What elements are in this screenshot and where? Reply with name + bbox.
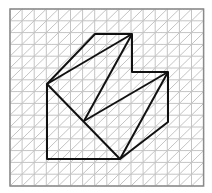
grid-diagonal bbox=[95, 68, 107, 80]
grid-diagonal bbox=[95, 162, 107, 174]
grid-diagonal bbox=[179, 139, 191, 151]
grid-diagonal bbox=[10, 9, 22, 21]
grid-diagonal bbox=[179, 103, 191, 115]
grid-diagonal bbox=[143, 162, 155, 174]
grid-diagonal bbox=[46, 56, 58, 68]
grid-diagonal bbox=[22, 103, 34, 115]
grid-diagonal bbox=[10, 151, 22, 163]
grid-diagonal bbox=[192, 56, 204, 68]
grid-diagonal bbox=[155, 127, 167, 139]
grid-diagonal bbox=[107, 127, 119, 139]
grid-diagonal bbox=[46, 21, 58, 33]
grid-diagonal bbox=[71, 80, 83, 92]
grid-diagonal bbox=[155, 33, 167, 45]
grid-diagonal bbox=[83, 139, 95, 151]
grid-diagonal bbox=[22, 21, 34, 33]
grid-diagonal bbox=[10, 103, 22, 115]
grid-diagonal bbox=[71, 127, 83, 139]
grid-diagonal bbox=[179, 21, 191, 33]
grid-diagonal bbox=[22, 44, 34, 56]
grid-diagonal bbox=[58, 162, 70, 174]
grid-diagonal bbox=[10, 44, 22, 56]
grid-diagonal bbox=[143, 9, 155, 21]
grid-diagonal bbox=[167, 127, 179, 139]
grid-diagonal bbox=[46, 139, 58, 151]
grid-diagonal bbox=[179, 162, 191, 174]
grid-diagonal bbox=[107, 80, 119, 92]
grid-diagonal bbox=[107, 9, 119, 21]
grid-diagonal bbox=[143, 56, 155, 68]
grid-diagonal bbox=[71, 151, 83, 163]
grid-diagonal bbox=[119, 80, 131, 92]
grid-diagonal bbox=[192, 92, 204, 104]
grid-diagonal bbox=[167, 115, 179, 127]
grid-diagonal bbox=[131, 21, 143, 33]
grid-diagonal bbox=[10, 162, 22, 174]
grid-diagonal bbox=[192, 151, 204, 163]
grid-diagonal bbox=[155, 139, 167, 151]
grid-diagonal bbox=[34, 162, 46, 174]
grid-diagonal bbox=[192, 103, 204, 115]
grid-diagonal bbox=[143, 44, 155, 56]
grid-diagonal bbox=[71, 162, 83, 174]
grid-diagonal bbox=[83, 151, 95, 163]
grid-diagonal bbox=[34, 103, 46, 115]
grid-diagonal bbox=[34, 56, 46, 68]
grid-diagonal bbox=[58, 80, 70, 92]
grid-diagonal bbox=[71, 115, 83, 127]
grid-diagonal bbox=[155, 9, 167, 21]
grid-diagonal bbox=[46, 103, 58, 115]
grid-diagonal bbox=[192, 44, 204, 56]
grid-diagonal bbox=[143, 115, 155, 127]
grid-diagonal bbox=[179, 9, 191, 21]
grid-diagonal bbox=[119, 56, 131, 68]
grid-diagonal bbox=[95, 9, 107, 21]
grid-diagonal bbox=[107, 174, 119, 186]
grid-diagonal bbox=[58, 127, 70, 139]
grid-diagonal bbox=[192, 127, 204, 139]
grid-diagonal bbox=[71, 92, 83, 104]
grid-diagonal bbox=[143, 33, 155, 45]
grid-diagonal bbox=[167, 9, 179, 21]
grid-diagonal bbox=[34, 21, 46, 33]
grid-diagonal bbox=[192, 115, 204, 127]
grid-diagonal bbox=[192, 33, 204, 45]
grid-diagonal bbox=[131, 174, 143, 186]
grid-diagonal bbox=[119, 68, 131, 80]
grid-diagonal bbox=[83, 80, 95, 92]
grid-diagonal bbox=[22, 139, 34, 151]
grid-diagonal bbox=[167, 56, 179, 68]
grid-diagonal bbox=[10, 21, 22, 33]
grid-diagonal bbox=[155, 21, 167, 33]
grid-diagonal bbox=[143, 68, 155, 80]
grid-diagonal bbox=[179, 115, 191, 127]
grid-diagonal bbox=[167, 174, 179, 186]
grid-diagonal bbox=[71, 139, 83, 151]
grid-diagonal bbox=[143, 151, 155, 163]
grid-diagonal bbox=[22, 33, 34, 45]
grid-diagonal bbox=[167, 162, 179, 174]
grid-diagonal bbox=[155, 56, 167, 68]
grid-diagonal bbox=[131, 103, 143, 115]
grid-diagonal bbox=[22, 151, 34, 163]
grid-diagonal bbox=[22, 92, 34, 104]
grid-diagonal bbox=[107, 139, 119, 151]
grid-diagonal bbox=[179, 127, 191, 139]
grid-diagonal bbox=[46, 9, 58, 21]
grid-diagonal bbox=[22, 127, 34, 139]
grid-diagonal bbox=[179, 68, 191, 80]
grid-diagonal bbox=[10, 115, 22, 127]
grid-diagonal bbox=[95, 174, 107, 186]
grid-diagonal bbox=[179, 33, 191, 45]
grid-diagonal bbox=[34, 33, 46, 45]
grid-diagonal bbox=[179, 174, 191, 186]
grid-diagonal bbox=[10, 127, 22, 139]
grid-diagonal bbox=[34, 127, 46, 139]
grid-diagonal bbox=[83, 33, 95, 45]
grid-diagonal bbox=[46, 33, 58, 45]
grid-diagonal bbox=[192, 162, 204, 174]
grid-diagonal bbox=[167, 68, 179, 80]
grid-diagonal bbox=[83, 68, 95, 80]
grid-diagonal bbox=[143, 21, 155, 33]
grid-diagonal bbox=[179, 151, 191, 163]
